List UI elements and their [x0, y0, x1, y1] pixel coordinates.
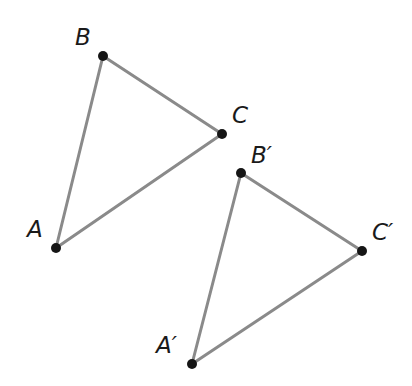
vertex-a [51, 243, 61, 253]
triangle-abc: A B C [25, 24, 248, 253]
label-a: A [25, 216, 43, 242]
edge-bc [103, 56, 222, 134]
diagram-svg: A B C A′ B′ C′ [0, 0, 412, 386]
vertex-c [217, 129, 227, 139]
vertex-a-prime [187, 359, 197, 369]
label-c-prime: C′ [372, 219, 394, 245]
label-c: C [232, 102, 248, 128]
vertex-b-prime [236, 168, 246, 178]
triangle-a-prime-b-prime-c-prime: A′ B′ C′ [154, 142, 394, 369]
translation-diagram: A B C A′ B′ C′ [0, 0, 412, 386]
vertex-c-prime [357, 246, 367, 256]
edge-b-prime-c-prime [241, 173, 362, 251]
label-a-prime: A′ [154, 332, 178, 358]
vertex-b [98, 51, 108, 61]
label-b: B [75, 24, 91, 50]
label-b-prime: B′ [251, 142, 273, 168]
